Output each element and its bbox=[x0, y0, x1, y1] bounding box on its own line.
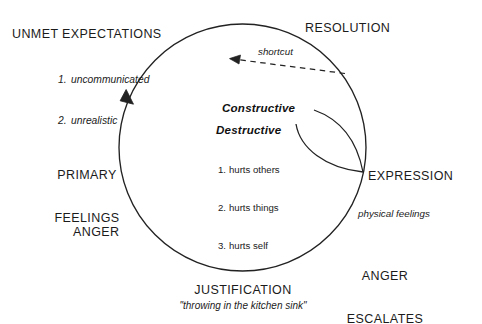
destructive-branch-arc bbox=[296, 124, 363, 172]
list-item: 1.hurts others bbox=[218, 164, 280, 177]
shortcut-label: shortcut bbox=[258, 46, 293, 57]
list-item: 1.uncommunicated bbox=[58, 73, 149, 87]
list-text: unrealistic bbox=[71, 115, 117, 126]
constructive-branch-arc bbox=[314, 110, 363, 172]
node-expression: EXPRESSION bbox=[368, 169, 453, 183]
list-text: hurts things bbox=[229, 202, 279, 213]
node-justification: JUSTIFICATION bbox=[168, 283, 318, 297]
list-text: uncommunicated bbox=[71, 74, 149, 85]
list-text: hurts others bbox=[229, 164, 280, 175]
node-resolution: RESOLUTION bbox=[305, 21, 390, 35]
list-item: 3.hurts self bbox=[218, 240, 280, 253]
branch-constructive-label: Constructive bbox=[222, 101, 295, 114]
branch-destructive-label: Destructive bbox=[216, 123, 281, 136]
list-number: 3. bbox=[218, 240, 229, 253]
list-item: 2.unrealistic bbox=[58, 114, 149, 128]
node-anger-escalates: ANGER ESCALATES bbox=[337, 240, 433, 324]
anger-escalates-line-1: ANGER bbox=[337, 269, 433, 283]
list-number: 1. bbox=[218, 164, 229, 177]
anger-escalates-line-2: ESCALATES bbox=[337, 312, 433, 324]
destructive-list: 1.hurts others 2.hurts things 3.hurts se… bbox=[218, 139, 280, 278]
primary-feelings-line-2: FEELINGS bbox=[42, 211, 132, 225]
list-item: 2.hurts things bbox=[218, 202, 280, 215]
justification-quote: "throwing in the kitchen sink" bbox=[148, 300, 338, 312]
primary-feelings-line-1: PRIMARY bbox=[42, 168, 132, 182]
node-unmet-expectations: UNMET EXPECTATIONS bbox=[12, 27, 162, 41]
diagram-canvas: UNMET EXPECTATIONS 1.uncommunicated 2.un… bbox=[0, 0, 482, 324]
physical-feelings-label: physical feelings bbox=[358, 208, 430, 219]
list-number: 2. bbox=[218, 202, 229, 215]
node-anger: ANGER bbox=[73, 225, 119, 239]
list-number: 2. bbox=[58, 114, 71, 128]
list-text: hurts self bbox=[229, 240, 268, 251]
list-number: 1. bbox=[58, 73, 71, 87]
